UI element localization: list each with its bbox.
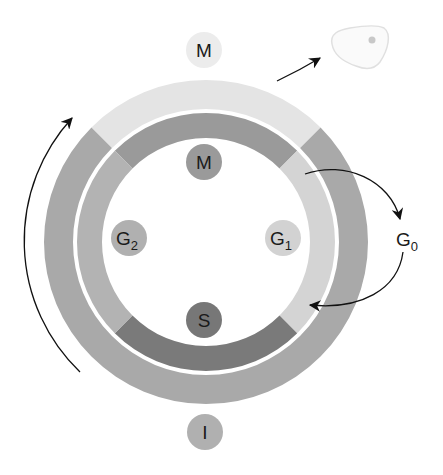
svg-text:I: I	[202, 422, 207, 443]
g0-label: G0	[396, 229, 418, 254]
node-g2: G2	[111, 220, 147, 256]
node-inner-m: M	[186, 144, 222, 180]
node-g1: G1	[265, 220, 301, 256]
nucleus-icon	[369, 37, 376, 44]
svg-text:S: S	[198, 310, 211, 331]
cell-cycle-diagram: G0 M M G1 G2 S I	[0, 0, 443, 475]
node-s: S	[186, 302, 222, 338]
node-i: I	[187, 414, 223, 450]
node-outer-m: M	[186, 32, 222, 68]
daughter-cell-icon	[332, 26, 389, 69]
svg-text:M: M	[196, 40, 212, 61]
svg-text:M: M	[196, 152, 212, 173]
exit-to-cell-arrow	[277, 58, 320, 81]
